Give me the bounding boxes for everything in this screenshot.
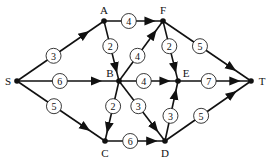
arrow-icon [154, 126, 155, 128]
node-F [160, 18, 166, 24]
edge-S-A [17, 21, 104, 81]
node-A [101, 18, 107, 24]
edge-weight-label: 4 [141, 76, 146, 87]
edge-weight-label: 2 [111, 101, 116, 112]
network-diagram: 365424423257356 SAFBETCD [0, 0, 271, 162]
node-label: T [259, 75, 266, 87]
node-label: A [100, 4, 108, 16]
edge-weight-label: 3 [168, 111, 173, 122]
node-C [102, 138, 108, 144]
node-label: C [101, 147, 108, 159]
node-label: E [183, 67, 190, 79]
node-T [248, 78, 254, 84]
edge-weight-label: 3 [51, 51, 56, 62]
edge-weight-label: 5 [51, 101, 56, 112]
edge-weight-label: 4 [126, 16, 131, 27]
network-graph: 365424423257356 SAFBETCD [0, 0, 271, 162]
node-label: F [160, 4, 166, 16]
edge-S-C [17, 81, 105, 141]
edge-weight-label: 2 [108, 41, 113, 52]
edge-weight-label: 3 [136, 101, 141, 112]
node-label: B [106, 67, 113, 79]
edge-D-T [165, 81, 251, 141]
arrow-icon [152, 34, 153, 36]
edge-weight-label: 6 [57, 76, 62, 87]
node-B [116, 78, 122, 84]
edge-weight-label: 5 [197, 41, 202, 52]
node-label: S [5, 75, 11, 87]
edge-weight-label: 2 [167, 41, 172, 52]
arrow-icon [83, 34, 85, 35]
arrow-icon [230, 94, 232, 95]
node-E [175, 78, 181, 84]
edge-weight-label: 7 [206, 76, 211, 87]
node-S [14, 78, 20, 84]
edge-weight-label: 6 [128, 136, 133, 147]
node-label: D [161, 147, 169, 159]
edge-weight-label: 5 [199, 111, 204, 122]
arrow-icon [84, 127, 86, 128]
edge-weight-label: 4 [135, 51, 140, 62]
arrow-icon [230, 67, 232, 68]
node-D [162, 138, 168, 144]
